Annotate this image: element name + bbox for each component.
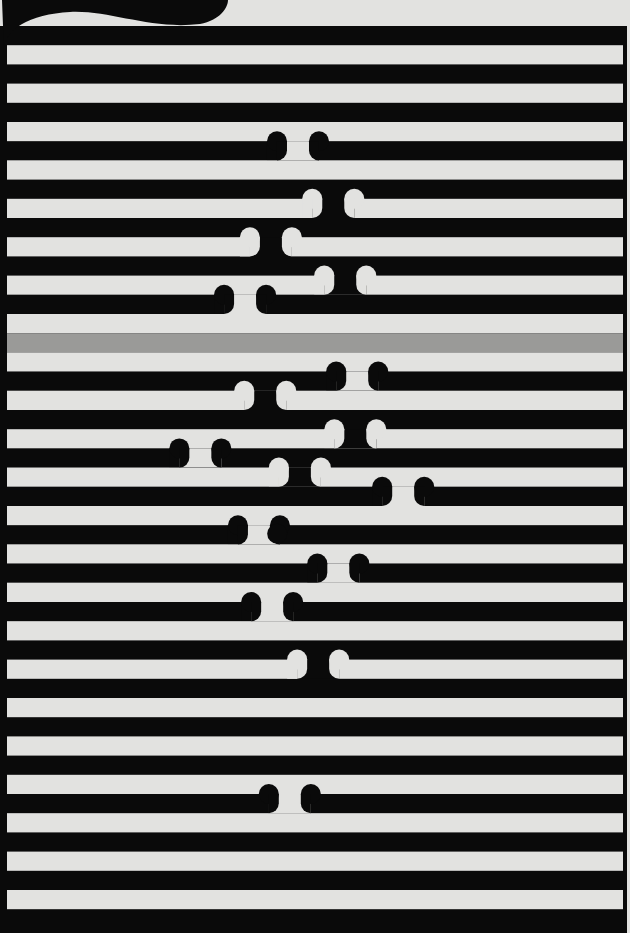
stripe-right-half (354, 199, 623, 218)
stripe-left-half (7, 141, 277, 160)
light-stripe (7, 698, 623, 717)
stripe-right-half (321, 468, 623, 487)
stripe-left-half (7, 237, 250, 256)
stripe-right-half (366, 276, 623, 295)
stripe-right-half (286, 391, 623, 410)
stripe-left-half (7, 391, 244, 410)
stripe-left-half (7, 295, 224, 314)
light-stripe (7, 621, 623, 640)
light-stripe (7, 314, 623, 333)
light-stripe (7, 583, 623, 602)
stripe-right-half (339, 660, 623, 679)
stripe-left-half (7, 199, 312, 218)
stripe-left-half (7, 660, 297, 679)
stripe-left-half (7, 487, 382, 506)
light-stripe (7, 84, 623, 103)
stripe-left-half (7, 602, 251, 621)
stripe-left-half (7, 276, 324, 295)
stripe-right-half (359, 564, 623, 583)
stripe-left-half (7, 794, 269, 813)
stripe-right-half (266, 295, 623, 314)
stripe-left-half (7, 448, 179, 467)
grey-band (7, 333, 623, 352)
light-stripe (7, 506, 623, 525)
light-stripe (7, 852, 623, 871)
stripe-left-half (7, 468, 279, 487)
light-stripe (7, 890, 623, 909)
stripe-right-half (311, 794, 623, 813)
stripe-right-half (319, 141, 623, 160)
striped-artwork (0, 0, 630, 933)
light-stripe (7, 45, 623, 64)
stripe-right-half (376, 429, 623, 448)
frame-right (623, 26, 627, 933)
stripe-left-half (7, 525, 238, 544)
stripe-right-half (292, 237, 623, 256)
stripe-left-half (7, 564, 317, 583)
light-stripe (7, 736, 623, 755)
light-stripe (7, 160, 623, 179)
light-stripe (7, 352, 623, 371)
stripe-right-half (378, 372, 623, 391)
stripe-right-half (424, 487, 623, 506)
stripe-right-half (293, 602, 623, 621)
standalone-dot (267, 524, 287, 544)
stripe-right-half (280, 525, 623, 544)
light-stripe (7, 813, 623, 832)
